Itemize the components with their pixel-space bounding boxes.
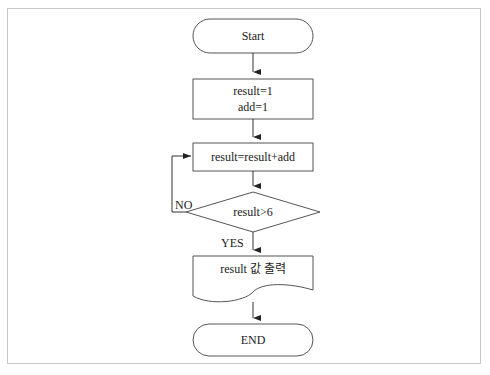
init-line-1: result=1 (233, 84, 272, 98)
flowchart: Start result=1 add=1 result=result+add r… (0, 0, 490, 375)
update-node: result=result+add (193, 143, 313, 171)
no-label: NO (175, 198, 193, 212)
end-label: END (241, 333, 266, 347)
start-label: Start (242, 29, 265, 43)
condition-label: result>6 (233, 205, 272, 219)
start-node: Start (193, 19, 313, 53)
output-node: result 값 출력 (193, 256, 313, 302)
init-line-2: add=1 (238, 100, 268, 114)
yes-label: YES (221, 236, 244, 250)
init-node: result=1 add=1 (193, 79, 313, 119)
end-node: END (193, 324, 313, 356)
condition-node: result>6 (186, 192, 320, 232)
update-label: result=result+add (211, 150, 295, 164)
output-label: result 값 출력 (220, 262, 286, 276)
